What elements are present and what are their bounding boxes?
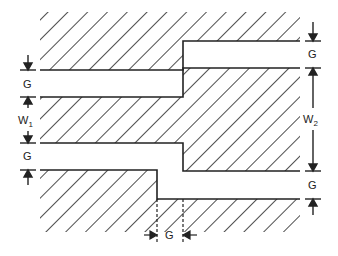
label-gap-bottom: G	[165, 229, 174, 241]
label-gap-right-top: G	[308, 48, 317, 60]
label-w2: W2	[303, 113, 318, 128]
label-gap-left-top: G	[23, 78, 32, 90]
center-strip	[40, 68, 300, 171]
top-ground-plane	[40, 12, 300, 70]
label-gap-left-bottom: G	[23, 150, 32, 162]
label-gap-right-bottom: G	[308, 179, 317, 191]
label-w1: W1	[18, 114, 33, 129]
cpw-step-diagram: G W1 G G W2 G G	[0, 0, 338, 256]
